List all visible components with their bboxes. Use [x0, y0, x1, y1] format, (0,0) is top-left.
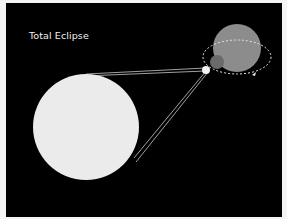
eclipse-diagram — [0, 0, 287, 219]
sun — [33, 74, 139, 180]
observer-point — [202, 66, 210, 74]
moon — [210, 55, 224, 69]
